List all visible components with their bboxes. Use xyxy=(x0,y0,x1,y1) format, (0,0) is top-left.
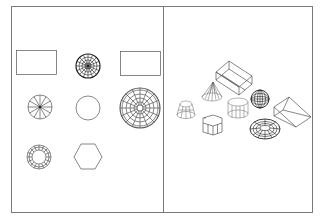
torus-wireframe xyxy=(250,119,280,139)
rectangle-shape xyxy=(121,52,161,76)
cone-wireframe xyxy=(202,82,222,101)
left-panel xyxy=(17,51,161,170)
rectangle-shape xyxy=(17,51,57,75)
drawing-frame xyxy=(12,7,313,213)
torus-plan-shape xyxy=(27,145,51,169)
hexagonal-prism-wireframe xyxy=(203,115,222,135)
drawing-svg xyxy=(0,0,320,222)
wedge-wireframe xyxy=(274,97,311,127)
frustum-wireframe xyxy=(177,101,195,119)
dome-plan-shape xyxy=(120,88,160,128)
drawing-canvas xyxy=(0,0,320,222)
hexagon-shape xyxy=(74,144,102,169)
circle-shape xyxy=(76,96,100,120)
right-panel xyxy=(177,61,311,139)
sphere-plan-shape xyxy=(76,54,100,78)
cone-plan-shape xyxy=(28,95,52,119)
sphere-wireframe xyxy=(251,90,269,108)
cylinder-wireframe xyxy=(228,98,248,118)
box-wireframe xyxy=(216,61,252,95)
